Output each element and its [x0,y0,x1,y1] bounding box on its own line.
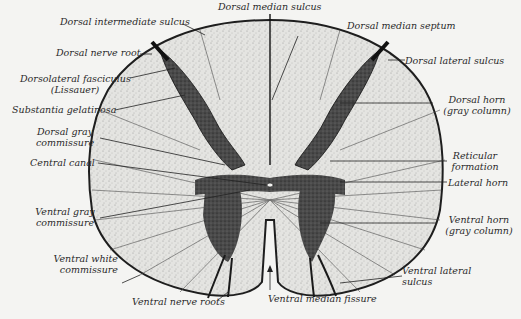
label-dorsal-horn: Dorsal horn (gray column) [433,94,521,116]
label-dorsal-intermediate-sulcus: Dorsal intermediate sulcus [60,16,190,27]
label-dorsolateral-fasciculus: Dorsolateral fasciculus (Lissauer) [20,73,130,95]
label-central-canal: Central canal [30,157,95,168]
label-dorsal-lateral-sulcus: Dorsal lateral sulcus [405,55,504,66]
label-ventral-gray-commissure: Ventral gray commissure [30,206,100,228]
label-ventral-lateral-sulcus: Ventral lateral sulcus [402,265,471,287]
label-dorsal-nerve-root: Dorsal nerve root [56,47,141,58]
label-ventral-nerve-roots: Ventral nerve roots [132,296,225,307]
label-reticular-formation: Reticular formation [445,150,505,172]
label-dorsal-median-sulcus: Dorsal median sulcus [218,1,321,12]
label-dorsal-gray-commissure: Dorsal gray commissure [30,126,100,148]
label-ventral-horn: Ventral horn (gray column) [437,214,521,236]
label-dorsal-median-septum: Dorsal median septum [347,20,456,31]
spinal-cord-diagram: Dorsal median sulcus Dorsal intermediate… [0,0,521,319]
label-ventral-median-fissure: Ventral median fissure [268,293,377,304]
label-ventral-white-commissure: Ventral white commissure [40,253,118,275]
label-lateral-horn: Lateral horn [448,177,508,188]
cord-outline [89,20,443,296]
label-substantia-gelatinosa: Substantia gelatinosa [12,104,116,115]
